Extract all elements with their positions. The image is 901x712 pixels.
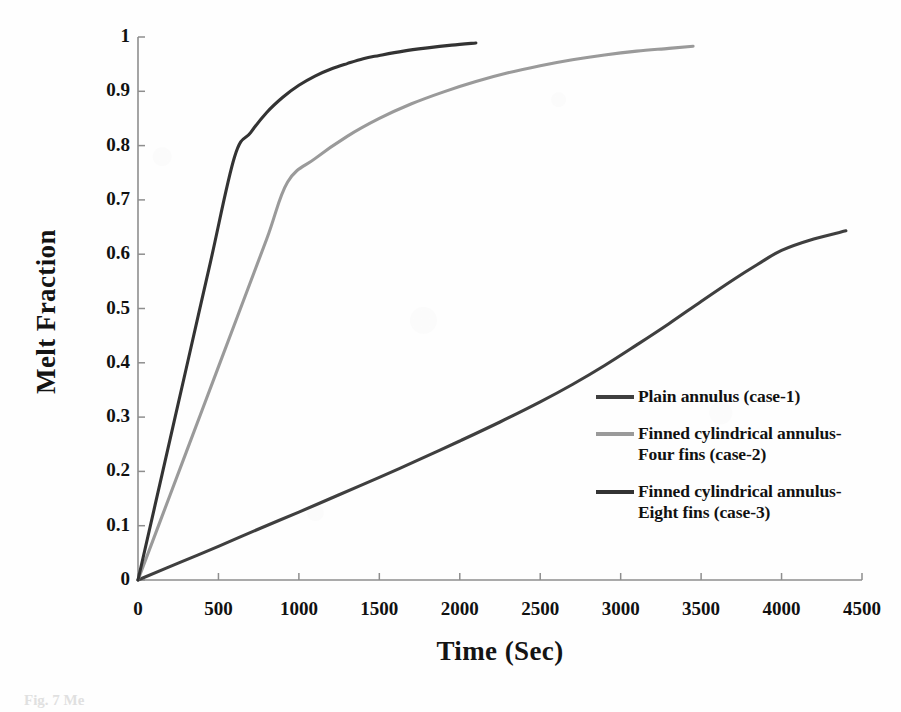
legend: Plain annulus (case-1)Finned cylindrical… [596, 386, 868, 539]
legend-item-label: Finned cylindrical annulus-Four fins (ca… [638, 423, 841, 465]
legend-line-swatch [596, 395, 634, 399]
legend-line-swatch [596, 490, 634, 494]
legend-line-swatch [596, 432, 634, 436]
plot-area [0, 0, 901, 712]
legend-item[interactable]: Plain annulus (case-1) [596, 386, 868, 407]
legend-item[interactable]: Finned cylindrical annulus-Eight fins (c… [596, 481, 868, 523]
figure-caption: Fig. 7 Me [24, 692, 84, 709]
series-line-3 [138, 43, 476, 580]
legend-item-label: Finned cylindrical annulus-Eight fins (c… [638, 481, 841, 523]
legend-item[interactable]: Finned cylindrical annulus-Four fins (ca… [596, 423, 868, 465]
figure-container: Melt Fraction Time (Sec) 00.10.20.30.40.… [0, 0, 901, 712]
legend-item-label: Plain annulus (case-1) [638, 386, 800, 407]
